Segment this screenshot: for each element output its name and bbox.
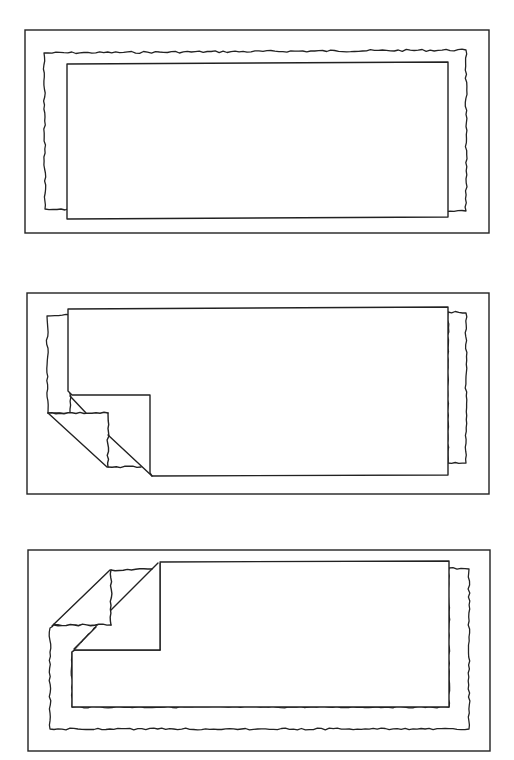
panel-top-corner-fold bbox=[28, 550, 490, 751]
torn-page-fold-diagram bbox=[0, 0, 514, 760]
flap-bottom-torn-edge bbox=[108, 466, 141, 468]
panel-flat-page bbox=[25, 30, 489, 233]
page-corner-crease bbox=[70, 396, 86, 413]
page-sheet bbox=[67, 62, 448, 219]
page-flap-crease bbox=[108, 435, 152, 476]
figure-canvas bbox=[0, 0, 514, 760]
torn-sheet-left bbox=[46, 314, 70, 413]
panel-bottom-corner-fold bbox=[27, 293, 489, 494]
torn-sheet-right bbox=[447, 312, 467, 464]
